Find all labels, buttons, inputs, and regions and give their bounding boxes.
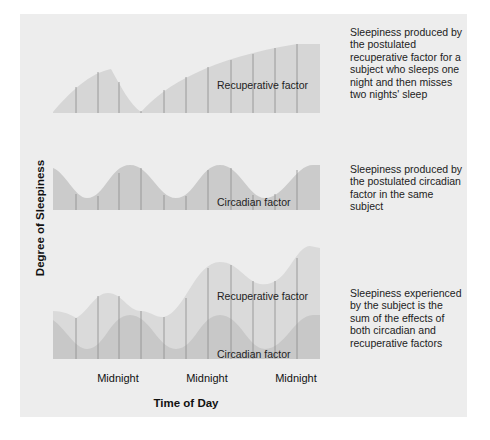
circadian-description: Sleepiness produced by the postulated ci… xyxy=(350,163,465,213)
combined-circadian-label: Circadian factor xyxy=(217,348,291,360)
combined-description: Sleepiness experienced by the subject is… xyxy=(350,287,465,349)
x-tick-midnight-3: Midnight xyxy=(275,372,317,384)
x-tick-midnight-1: Midnight xyxy=(97,372,139,384)
x-axis-label: Time of Day xyxy=(154,397,219,409)
combined-recuperative-area xyxy=(53,246,320,359)
combined-recuperative-label: Recuperative factor xyxy=(217,290,308,302)
recuperative-curve-label: Recuperative factor xyxy=(217,79,308,91)
y-axis-label: Degree of Sleepiness xyxy=(34,160,46,276)
x-tick-midnight-2: Midnight xyxy=(186,372,228,384)
circadian-curve-label: Circadian factor xyxy=(217,196,291,208)
recuperative-description: Sleepiness produced by the postulated re… xyxy=(350,26,465,100)
combined-chart xyxy=(53,246,320,359)
